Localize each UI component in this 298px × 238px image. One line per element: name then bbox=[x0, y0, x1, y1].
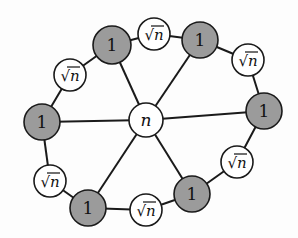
node-weight-sqrt-n: √n bbox=[34, 165, 66, 197]
node-weight-one-label: 1 bbox=[83, 198, 94, 218]
center-node-n: n bbox=[129, 103, 163, 137]
node-weight-one-label: 1 bbox=[187, 184, 198, 204]
node-weight-sqrt-n-label: √n bbox=[40, 173, 59, 191]
wheel-graph-diagram: 1√n1√n1√n1√n1√n1√nn bbox=[0, 0, 298, 238]
node-weight-one: 1 bbox=[24, 104, 60, 140]
node-weight-sqrt-n-label: √n bbox=[136, 202, 155, 220]
node-weight-one-label: 1 bbox=[107, 35, 118, 55]
node-weight-one-label: 1 bbox=[195, 30, 206, 50]
node-weight-sqrt-n: √n bbox=[130, 194, 162, 226]
node-weight-sqrt-n-label: √n bbox=[60, 67, 79, 85]
node-weight-sqrt-n-label: √n bbox=[144, 26, 163, 44]
node-weight-sqrt-n-label: √n bbox=[227, 154, 246, 172]
node-weight-sqrt-n: √n bbox=[221, 146, 253, 178]
node-weight-one: 1 bbox=[70, 190, 106, 226]
node-weight-one: 1 bbox=[174, 176, 210, 212]
node-weight-one-label: 1 bbox=[37, 112, 48, 132]
node-weight-sqrt-n: √n bbox=[54, 59, 86, 91]
node-weight-one: 1 bbox=[93, 26, 131, 64]
node-weight-sqrt-n: √n bbox=[232, 44, 264, 76]
center-node-n-label: n bbox=[141, 110, 152, 130]
node-weight-sqrt-n: √n bbox=[138, 18, 170, 50]
node-weight-one-label: 1 bbox=[259, 101, 270, 121]
node-weight-sqrt-n-label: √n bbox=[238, 52, 257, 70]
node-weight-one: 1 bbox=[182, 22, 218, 58]
node-weight-one: 1 bbox=[246, 93, 282, 129]
